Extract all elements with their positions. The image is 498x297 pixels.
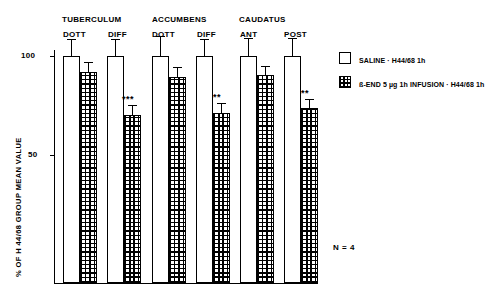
errorbar-cap-saline-caudatus-ant [244,38,253,39]
bar-bend-accumbens-diff [213,113,230,283]
errorbar-bend-tuberculum-diff [132,105,133,115]
errorbar-cap-saline-tuberculum-diff [111,39,120,40]
errorbar-cap-saline-accumbens-diff [200,39,209,40]
bar-saline-accumbens-diff [196,56,213,283]
y-axis-title: % OF H 44/68 GROUP MEAN VALUE [14,137,23,277]
subgroup-label-tuberculum-dott: DOTT [63,30,86,39]
bar-saline-caudatus-post [284,56,301,283]
legend-label-saline: SALINE · H44/68 1h [359,57,425,64]
sample-size-annotation: N = 4 [333,243,355,252]
figure-canvas: 100 50 % OF H 44/68 GROUP MEAN VALUE TUB… [0,0,498,297]
significance-accumbens-diff: ** [213,92,221,102]
y-tick-100 [50,56,55,57]
legend-swatch-bend [339,76,351,88]
bar-saline-tuberculum-diff [107,56,124,283]
significance-tuberculum-diff: *** [122,94,134,104]
errorbar-cap-saline-accumbens-dott [156,36,165,37]
errorbar-cap-bend-accumbens-dott [173,67,182,68]
subgroup-label-accumbens-diff: DIFF [197,30,216,39]
subgroup-label-tuberculum-diff: DIFF [108,30,127,39]
errorbar-cap-bend-caudatus-ant [261,66,270,67]
errorbar-cap-bend-tuberculum-diff [128,105,137,106]
errorbar-saline-caudatus-post [292,38,293,56]
errorbar-saline-accumbens-diff [204,39,205,56]
y-tick-label-100: 100 [21,51,35,60]
errorbar-cap-bend-tuberculum-dott [84,62,93,63]
errorbar-saline-tuberculum-dott [71,39,72,56]
errorbar-bend-accumbens-dott [177,67,178,77]
bar-saline-caudatus-ant [240,56,257,283]
bar-saline-accumbens-dott [152,56,169,283]
errorbar-saline-accumbens-dott [160,36,161,56]
bar-saline-tuberculum-dott [63,56,80,283]
bar-bend-accumbens-dott [169,77,186,283]
errorbar-bend-caudatus-ant [265,66,266,75]
bar-bend-caudatus-ant [257,75,274,283]
errorbar-cap-bend-accumbens-diff [217,103,226,104]
y-tick-label-50: 50 [28,150,38,159]
group-header-caudatus: CAUDATUS [239,15,286,24]
errorbar-saline-caudatus-ant [248,38,249,56]
bar-bend-tuberculum-dott [80,72,97,283]
group-header-accumbens: ACCUMBENS [152,15,207,24]
errorbar-bend-caudatus-post [309,99,310,108]
legend-swatch-saline [339,52,351,64]
group-header-tuberculum: TUBERCULUM [62,15,121,24]
bar-bend-caudatus-post [301,108,318,283]
errorbar-bend-tuberculum-dott [88,62,89,72]
y-tick-50 [50,155,55,156]
subgroup-label-accumbens-dott: DOTT [152,30,175,39]
x-axis-baseline [54,283,318,284]
significance-caudatus-post: ** [301,88,309,98]
errorbar-saline-tuberculum-diff [115,39,116,56]
errorbar-cap-bend-caudatus-post [305,99,314,100]
errorbar-cap-saline-caudatus-post [288,38,297,39]
legend-label-bend: ß-END 5 µg 1h INFUSION · H44/68 1h [359,81,484,88]
y-axis-line [54,50,55,284]
errorbar-bend-accumbens-diff [221,103,222,113]
bar-bend-tuberculum-diff [124,115,141,283]
errorbar-cap-saline-tuberculum-dott [67,39,76,40]
